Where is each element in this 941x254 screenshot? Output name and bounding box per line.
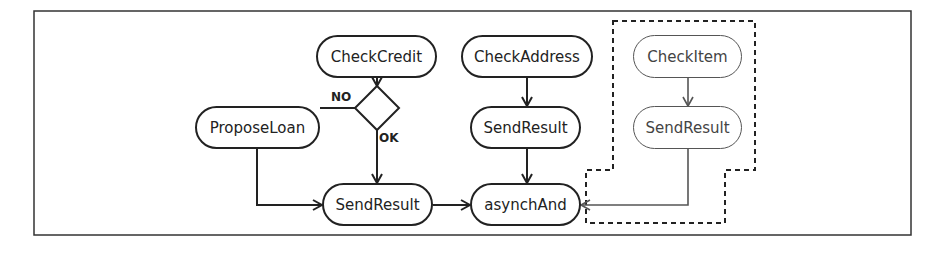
edge-sendresult3-asynchand: [581, 149, 688, 205]
node-asynch-and[interactable]: asynchAnd: [470, 183, 581, 226]
label-no: NO: [331, 90, 351, 104]
node-send-result-credit[interactable]: SendResult: [322, 183, 433, 226]
activity-diagram: CheckCredit CheckAddress CheckItem Propo…: [0, 0, 941, 254]
node-propose-loan[interactable]: ProposeLoan: [195, 106, 320, 149]
edge-proposeloan-sendresult: [257, 149, 322, 205]
node-send-result-address[interactable]: SendResult: [470, 106, 581, 149]
node-check-credit[interactable]: CheckCredit: [316, 35, 437, 78]
decision-diamond: [355, 86, 399, 130]
node-check-item[interactable]: CheckItem: [633, 35, 742, 78]
node-send-result-item[interactable]: SendResult: [633, 106, 742, 149]
node-check-address[interactable]: CheckAddress: [461, 35, 593, 78]
label-ok: OK: [379, 131, 399, 145]
